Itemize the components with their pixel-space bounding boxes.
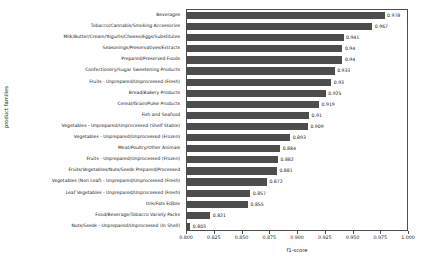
- y-axis-tick-label: Vegetables - Unprepared/Unprocessed (Fro…: [74, 133, 180, 140]
- x-axis-tick-label: 0.925: [318, 235, 332, 240]
- y-axis-tick-label: Meat/Poultry/Other Animals: [118, 144, 180, 151]
- bar-value-label: 0.978: [387, 12, 400, 19]
- x-axis-tick-mark: [186, 231, 187, 234]
- bar: [187, 156, 278, 163]
- y-axis-tick-label: Confectionery/Sugar Sweetening Products: [85, 66, 180, 73]
- bar-value-label: 0.919: [322, 101, 335, 108]
- bar-value-label: 0.881: [279, 167, 292, 174]
- bar-value-label: 0.93: [334, 79, 344, 86]
- x-axis-tick-mark: [408, 231, 409, 234]
- x-axis-title: f1-score: [186, 247, 408, 253]
- y-axis-title: product families: [3, 77, 9, 137]
- bar: [187, 56, 342, 63]
- bar: [187, 79, 331, 86]
- bar-value-label: 0.855: [251, 201, 264, 208]
- x-axis-tick-label: 0.825: [207, 235, 221, 240]
- chart-figure: BeveragesTobacco/Cannabis/Smoking Access…: [0, 0, 431, 266]
- bar-value-label: 0.94: [345, 56, 355, 63]
- x-axis-tick-label: 0.975: [373, 235, 387, 240]
- y-axis-tick-label: Bread/Bakery Products: [129, 89, 180, 96]
- x-axis-tick-label: 0.900: [290, 235, 304, 240]
- bar: [187, 212, 210, 219]
- bar: [187, 167, 277, 174]
- y-axis-tick-label: Leaf Vegetables - Unprepared/Unprocessed…: [66, 189, 180, 196]
- y-axis-tick-label: Fruits - Unprepared/Unprocessed (Fresh): [89, 78, 180, 85]
- bar-value-label: 0.933: [337, 67, 350, 74]
- bar: [187, 90, 326, 97]
- bar-value-label: 0.94: [345, 45, 355, 52]
- bar-value-label: 0.872: [269, 178, 282, 185]
- bar-value-label: 0.803: [193, 223, 206, 230]
- bar-value-label: 0.882: [281, 156, 294, 163]
- bar-value-label: 0.893: [293, 134, 306, 141]
- bar: [187, 178, 267, 185]
- bar-value-label: 0.91: [312, 112, 322, 119]
- bar-value-label: 0.925: [328, 90, 341, 97]
- bar-value-label: 0.857: [253, 190, 266, 197]
- y-axis-tick-labels: BeveragesTobacco/Cannabis/Smoking Access…: [0, 9, 183, 231]
- y-axis-tick-label: Food/Beverage/Tobacco Variety Packs: [95, 211, 180, 218]
- bar: [187, 34, 344, 41]
- y-axis-tick-label: Seasonings/Preservatives/Extracts: [103, 44, 180, 51]
- bar: [187, 101, 319, 108]
- y-axis-tick-label: Fish and Seafood: [142, 111, 180, 118]
- y-axis-tick-label: Milk/Butter/Cream/Yogurts/Cheese/Eggs/Su…: [63, 33, 180, 40]
- bar-series: 0.9780.9670.9410.940.940.9330.930.9250.9…: [187, 10, 407, 230]
- bar-value-label: 0.967: [375, 23, 388, 30]
- x-axis-tick-label: 0.850: [235, 235, 249, 240]
- bar: [187, 112, 309, 119]
- y-axis-tick-label: Fruits - Unprepared/Unprocessed (Frozen): [86, 155, 180, 162]
- y-axis-tick-label: Oils/Fats Edible: [146, 200, 180, 207]
- bar: [187, 201, 248, 208]
- bar: [187, 134, 290, 141]
- x-axis-tick-mark: [242, 231, 243, 234]
- x-axis-tick-label: 0.800: [179, 235, 193, 240]
- bar: [187, 190, 250, 197]
- x-axis-tick-label: 0.875: [262, 235, 276, 240]
- y-axis-tick-label: Tobacco/Cannabis/Smoking Accessories: [91, 22, 180, 29]
- bar: [187, 12, 385, 19]
- x-axis-tick-mark: [353, 231, 354, 234]
- bar-value-label: 0.941: [346, 34, 359, 41]
- bar-value-label: 0.884: [283, 145, 296, 152]
- y-axis-tick-label: Fruits/Vegetables/Nuts/Seeds Prepared/Pr…: [69, 166, 180, 173]
- bar: [187, 123, 308, 130]
- bar-value-label: 0.909: [310, 123, 323, 130]
- x-axis-tick-label: 1.000: [401, 235, 415, 240]
- y-axis-tick-label: Nuts/Seeds - Unprepared/Unprocessed (In …: [71, 222, 180, 229]
- x-axis-tick-mark: [214, 231, 215, 234]
- bar: [187, 67, 335, 74]
- y-axis-tick-label: Cereal/Grain/Pulse Products: [118, 100, 180, 107]
- plot-area: 0.9780.9670.9410.940.940.9330.930.9250.9…: [186, 9, 408, 231]
- y-axis-tick-label: Prepared/Preserved Foods: [121, 55, 180, 62]
- bar: [187, 223, 190, 230]
- x-axis-tick-mark: [380, 231, 381, 234]
- x-axis-tick-mark: [297, 231, 298, 234]
- bar-value-label: 0.821: [213, 212, 226, 219]
- bar: [187, 145, 280, 152]
- bar: [187, 23, 372, 30]
- bar: [187, 45, 342, 52]
- x-axis-tick-mark: [325, 231, 326, 234]
- x-axis-tick-mark: [269, 231, 270, 234]
- y-axis-tick-label: Beverages: [156, 11, 180, 18]
- y-axis-tick-label: Vegetables - Unprepared/Unprocessed (She…: [62, 122, 180, 129]
- y-axis-tick-label: Vegetables (Non Leaf) - Unprepared/Unpro…: [52, 177, 180, 184]
- x-axis-tick-label: 0.950: [346, 235, 360, 240]
